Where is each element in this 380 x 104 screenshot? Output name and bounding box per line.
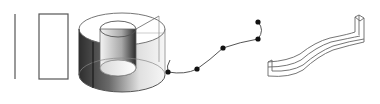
control-point: [165, 69, 170, 74]
swept-solid: [268, 15, 364, 76]
control-point: [255, 36, 260, 41]
diagram-svg: [0, 0, 380, 104]
control-point: [255, 19, 260, 24]
spline-path: [165, 19, 261, 74]
diagram-canvas: [0, 0, 380, 104]
control-point: [194, 66, 199, 71]
control-point: [220, 45, 225, 50]
ring-solid: [79, 13, 165, 92]
profile-rectangle: [39, 14, 68, 79]
